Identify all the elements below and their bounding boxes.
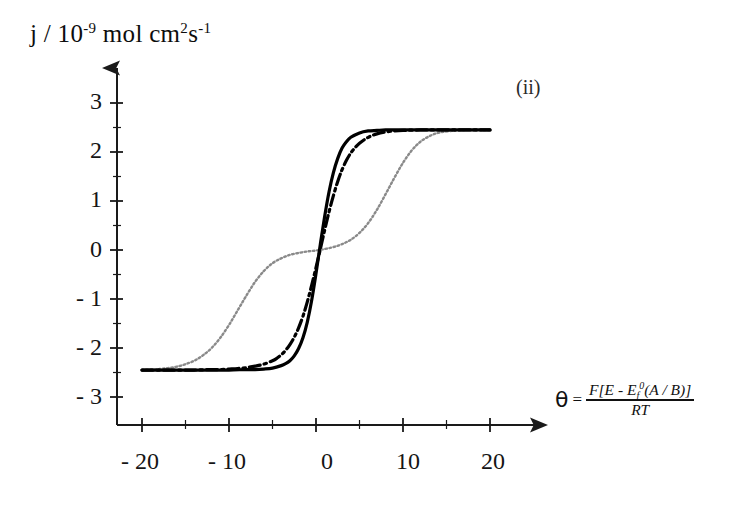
x-tick-label: 10 <box>380 448 436 475</box>
y-tick-label: 3 <box>40 88 102 115</box>
y-tick-label: - 1 <box>40 285 102 312</box>
series-dotted-curve <box>142 130 490 370</box>
data-series-group <box>142 130 490 370</box>
y-tick-label: - 2 <box>40 334 102 361</box>
x-tick-label: - 20 <box>112 448 168 475</box>
x-tick-label: 0 <box>299 448 355 475</box>
y-tick-label: - 3 <box>40 383 102 410</box>
plot-area <box>0 0 729 513</box>
y-tick-label: 2 <box>40 137 102 164</box>
x-tick-label: - 10 <box>199 448 255 475</box>
y-tick-label: 0 <box>40 236 102 263</box>
y-tick-label: 1 <box>40 186 102 213</box>
x-tick-label: 20 <box>465 448 521 475</box>
chart-figure: j / 10-9 mol cm2s-1 (ii) θ = F[E - Ef0(A… <box>0 0 729 513</box>
